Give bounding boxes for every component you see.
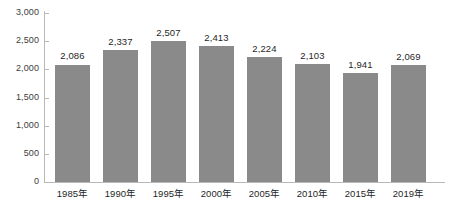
bar [295,64,330,182]
bar [55,65,90,183]
bar [199,46,234,182]
y-axis-tick-label: 2,000 [0,64,39,73]
y-axis-tick-label: 3,000 [0,8,39,17]
bar-value-label: 1,941 [338,60,384,70]
y-axis-tick-label: 1,500 [0,93,39,102]
bar-value-label: 2,103 [290,51,336,61]
y-axis-tick-label: 0 [0,177,39,186]
bar-chart: 05001,0001,5002,0002,5003,000 2,0862,337… [0,0,449,208]
y-axis-tick-label: 1,000 [0,121,39,130]
x-axis-tick-label: 2019年 [383,188,435,199]
y-axis-tick [44,182,49,183]
y-axis-tick-label: 500 [0,149,39,158]
bar [391,65,426,182]
x-axis-tick-label: 2000年 [191,188,243,199]
bar-value-label: 2,224 [242,44,288,54]
bar-value-label: 2,337 [98,37,144,47]
bar [247,57,282,182]
bar [103,50,138,182]
x-axis-tick-label: 2010年 [287,188,339,199]
x-axis-line [44,182,445,183]
x-axis-tick-label: 1995年 [143,188,195,199]
bar-value-label: 2,086 [50,51,96,61]
bar [151,41,186,182]
bar-value-label: 2,069 [386,52,432,62]
bar-value-label: 2,413 [194,33,240,43]
y-axis-tick-label: 2,500 [0,36,39,45]
x-axis-tick-label: 1990年 [95,188,147,199]
bar-value-label: 2,507 [146,28,192,38]
bar [343,73,378,182]
x-axis-tick-label: 2005年 [239,188,291,199]
x-axis-tick-label: 1985年 [47,188,99,199]
x-axis-tick-label: 2015年 [335,188,387,199]
